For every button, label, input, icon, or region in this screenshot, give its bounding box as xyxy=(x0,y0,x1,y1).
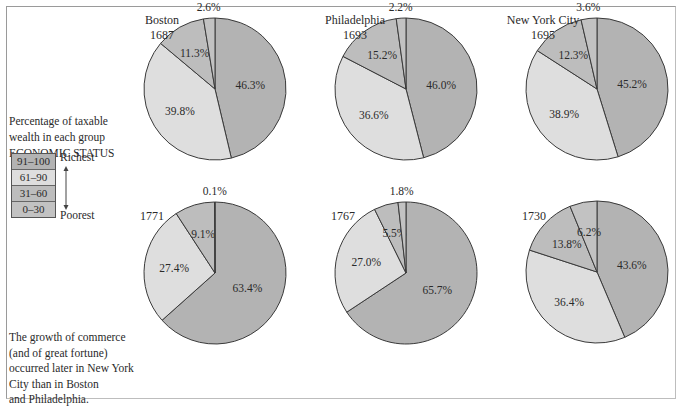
legend-caption-line: Percentage of taxable xyxy=(9,113,114,129)
year: 1693 xyxy=(314,28,396,43)
label-philadelphia-1767: 1767 xyxy=(325,209,361,224)
pie-value-label: 39.8% xyxy=(165,105,195,117)
legend-row-0-30: 0–30 xyxy=(12,202,55,217)
pie-value-label: 2.2% xyxy=(389,1,413,13)
pie-value-label: 27.0% xyxy=(351,256,381,268)
year: 1687 xyxy=(138,28,186,43)
year: 1771 xyxy=(134,209,170,224)
label-nyc-1730: 1730 xyxy=(516,209,552,224)
pie-value-label: 3.6% xyxy=(576,1,600,13)
pie-value-label: 36.6% xyxy=(359,109,389,121)
footnote-line: occurred later in New York xyxy=(9,361,149,377)
legend-row-31-60: 31–60 xyxy=(12,186,55,202)
footnote-line: and Philadelphia. xyxy=(9,392,149,408)
pie-value-label: 13.8% xyxy=(552,238,582,250)
pie-value-label: 38.9% xyxy=(549,108,579,120)
pie-value-label: 2.6% xyxy=(197,1,221,13)
pie-value-label: 1.8% xyxy=(390,185,414,197)
legend-row-91-100: 91–100 xyxy=(12,154,55,170)
legend-caption-line: wealth in each group xyxy=(9,129,114,145)
double-arrow-icon xyxy=(62,166,70,210)
pie-value-label: 46.3% xyxy=(235,79,265,91)
city-name: Boston xyxy=(138,13,186,28)
pie-value-label: 45.2% xyxy=(617,78,647,90)
pie-value-label: 12.3% xyxy=(558,49,588,61)
year: 1767 xyxy=(325,209,361,224)
label-philadelphia-1693: Philadelphia 1693 xyxy=(314,13,396,43)
pie-value-label: 27.4% xyxy=(159,262,189,274)
legend-row-61-90: 61–90 xyxy=(12,170,55,186)
pie-value-label: 63.4% xyxy=(233,282,263,294)
footnote-line: The growth of commerce xyxy=(9,330,149,346)
pie-value-label: 46.0% xyxy=(426,79,456,91)
pie-value-label: 9.1% xyxy=(191,228,215,240)
pie-value-label: 11.3% xyxy=(180,47,210,59)
city-name: New York City xyxy=(498,13,588,28)
label-boston-1771: 1771 xyxy=(134,209,170,224)
label-nyc-1695: New York City 1695 xyxy=(498,13,588,43)
pie-value-label: 43.6% xyxy=(617,259,647,271)
legend-box: 91–100 61–90 31–60 0–30 xyxy=(11,153,56,218)
pie-value-label: 65.7% xyxy=(422,284,452,296)
pie-value-label: 15.2% xyxy=(367,49,397,61)
legend-richest: Richest xyxy=(60,151,95,163)
footnote-line: City than in Boston xyxy=(9,377,149,393)
pie-value-label: 36.4% xyxy=(554,296,584,308)
city-name: Philadelphia xyxy=(314,13,396,28)
footnote: The growth of commerce (and of great for… xyxy=(9,330,149,408)
footnote-line: (and of great fortune) xyxy=(9,346,149,362)
legend-poorest: Poorest xyxy=(60,209,95,221)
pie-value-label: 6.2% xyxy=(577,226,601,238)
year: 1730 xyxy=(516,209,552,224)
pie-value-label: 0.1% xyxy=(203,185,227,197)
year: 1695 xyxy=(498,28,588,43)
label-boston-1687: Boston 1687 xyxy=(138,13,186,43)
